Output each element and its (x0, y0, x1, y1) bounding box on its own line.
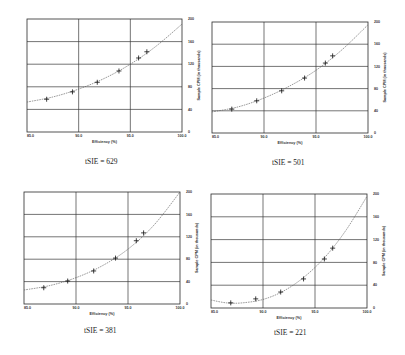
chart-tsie-381: 85.090.095.0100.004080120160200Efficienc… (24, 192, 180, 304)
x-tick-label: 100.0 (178, 134, 187, 138)
x-tick-label: 100.0 (363, 310, 372, 314)
x-tick-label: 85.0 (27, 134, 34, 138)
x-tick-label: 95.0 (127, 134, 134, 138)
y-tick-label: 120 (373, 238, 379, 242)
y-tick-label: 40 (374, 109, 378, 113)
y-tick-label: 120 (186, 235, 192, 239)
x-tick-label: 90.0 (73, 306, 80, 310)
y-tick-label: 0 (188, 130, 190, 134)
x-axis-label: Efficiency (%) (277, 316, 303, 320)
data-markers (228, 246, 335, 306)
grid-lines (27, 19, 182, 132)
data-markers (229, 53, 335, 111)
x-tick-label: 90.0 (261, 135, 268, 139)
y-tick-label: 120 (374, 65, 380, 69)
y-tick-label: 80 (188, 85, 192, 89)
y-axis-label: Sample CPM (in thousands) (195, 222, 199, 273)
x-tick-label: 95.0 (312, 310, 319, 314)
fit-curve (27, 24, 182, 102)
grid-lines (212, 22, 368, 133)
chart-plot: 85.090.095.0100.004080120160200Efficienc… (27, 19, 182, 132)
y-axis-label: Sample CPM (in thousands) (382, 225, 386, 276)
x-axis-label: Efficiency (%) (92, 140, 118, 144)
y-tick-label: 0 (374, 131, 376, 135)
chart-tsie-629: 85.090.095.0100.004080120160200Efficienc… (27, 19, 182, 132)
y-tick-label: 80 (186, 257, 190, 261)
chart-plot: 85.090.095.0100.004080120160200Efficienc… (212, 22, 368, 133)
x-tick-label: 95.0 (125, 306, 132, 310)
chart-caption-tsie-629: tSIE = 629 (85, 157, 118, 166)
plot-frame (212, 22, 368, 133)
y-tick-label: 200 (374, 20, 380, 24)
y-tick-label: 160 (186, 213, 192, 217)
y-tick-label: 160 (373, 215, 379, 219)
y-tick-label: 120 (188, 62, 194, 66)
y-tick-label: 40 (186, 280, 190, 284)
plot-frame (27, 19, 182, 132)
y-tick-label: 160 (188, 40, 194, 44)
y-tick-label: 200 (186, 190, 192, 194)
fit-curve (24, 192, 180, 290)
chart-tsie-501: 85.090.095.0100.004080120160200Efficienc… (212, 22, 368, 133)
y-tick-label: 40 (188, 108, 192, 112)
grid-lines (24, 192, 180, 304)
x-tick-label: 100.0 (364, 135, 373, 139)
x-tick-label: 85.0 (24, 306, 31, 310)
x-tick-label: 90.0 (260, 310, 267, 314)
y-tick-label: 200 (373, 192, 379, 196)
x-tick-label: 95.0 (313, 135, 320, 139)
chart-tsie-221: 85.090.095.0100.004080120160200Efficienc… (211, 194, 367, 308)
x-tick-label: 100.0 (176, 306, 185, 310)
chart-plot: 85.090.095.0100.004080120160200Efficienc… (211, 194, 367, 308)
x-axis-label: Efficiency (%) (278, 141, 304, 145)
data-markers (44, 49, 149, 101)
chart-plot: 85.090.095.0100.004080120160200Efficienc… (24, 192, 180, 304)
x-axis-label: Efficiency (%) (90, 312, 116, 316)
chart-caption-tsie-501: tSIE = 501 (272, 158, 305, 167)
y-tick-label: 80 (374, 87, 378, 91)
y-tick-label: 40 (373, 283, 377, 287)
plot-frame (211, 194, 367, 308)
chart-caption-tsie-221: tSIE = 221 (274, 328, 307, 337)
y-axis-label: Sample CPM (in thousands) (383, 52, 387, 103)
y-tick-label: 80 (373, 261, 377, 265)
grid-lines (211, 194, 367, 308)
fit-curve (212, 25, 368, 112)
chart-caption-tsie-381: tSIE = 381 (84, 326, 117, 335)
y-tick-label: 160 (374, 42, 380, 46)
x-tick-label: 85.0 (212, 135, 219, 139)
fit-curve (211, 196, 367, 303)
y-axis-label: Sample CPM (in thousands) (197, 50, 201, 101)
x-tick-label: 85.0 (211, 310, 218, 314)
y-tick-label: 200 (188, 17, 194, 21)
x-tick-label: 90.0 (75, 134, 82, 138)
y-tick-label: 0 (373, 306, 375, 310)
plot-frame (24, 192, 180, 304)
y-tick-label: 0 (186, 302, 188, 306)
